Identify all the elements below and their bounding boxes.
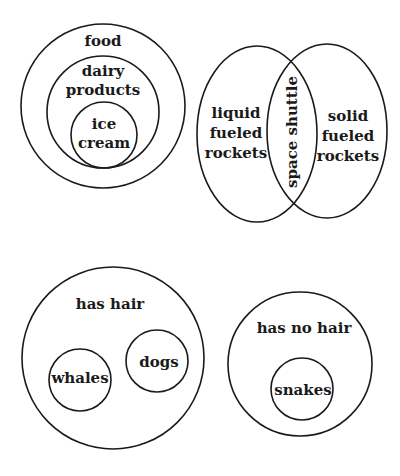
has-hair-diagram: has hair whales dogs xyxy=(22,267,204,449)
has-no-hair-diagram: has no hair snakes xyxy=(228,292,372,436)
food-label: food xyxy=(85,32,122,50)
space-shuttle-label: space shuttle xyxy=(283,76,301,188)
has-no-hair-circle xyxy=(228,292,372,436)
dairy-label-line2: products xyxy=(66,81,140,99)
liquid-label-line2: fueled xyxy=(210,124,263,142)
whales-label: whales xyxy=(50,369,108,387)
liquid-label-line3: rockets xyxy=(205,144,267,162)
ice-cream-label-line2: cream xyxy=(78,134,130,152)
solid-label-line2: fueled xyxy=(322,127,375,145)
food-diagram: food dairy products ice cream xyxy=(21,24,185,188)
ice-cream-label-line1: ice xyxy=(92,115,116,133)
has-hair-label: has hair xyxy=(76,295,146,313)
solid-label-line3: rockets xyxy=(317,147,379,165)
snakes-label: snakes xyxy=(274,381,331,399)
dairy-label-line1: dairy xyxy=(82,62,126,80)
dogs-label: dogs xyxy=(139,353,178,371)
solid-label-line1: solid xyxy=(328,107,369,125)
euler-diagrams: food dairy products ice cream liquid fue… xyxy=(0,0,400,476)
has-no-hair-label: has no hair xyxy=(257,319,353,337)
liquid-label-line1: liquid xyxy=(212,104,261,122)
rockets-diagram: liquid fueled rockets space shuttle soli… xyxy=(197,44,387,222)
